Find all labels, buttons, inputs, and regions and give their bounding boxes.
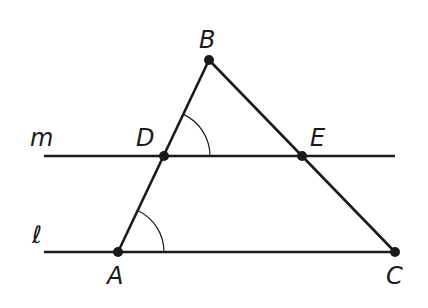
angle-mark-D [184,114,210,156]
point-E [297,151,307,161]
geometry-diagram: mℓBDEAC [0,0,428,308]
point-label-A: A [105,262,123,290]
point-label-B: B [199,26,215,54]
point-A [113,247,123,257]
point-label-D: D [136,124,154,152]
point-label-C: C [386,262,403,290]
line-label-m: m [30,124,53,152]
point-C [390,247,400,257]
triangle-parallel-lines-figure: mℓBDEAC [0,0,428,308]
point-label-E: E [310,124,326,152]
angle-mark-A [138,210,164,252]
point-D [159,151,169,161]
point-B [204,55,214,65]
parallel-lines [44,156,395,252]
line-label-l: ℓ [31,221,42,249]
labels: mℓBDEAC [30,26,403,290]
